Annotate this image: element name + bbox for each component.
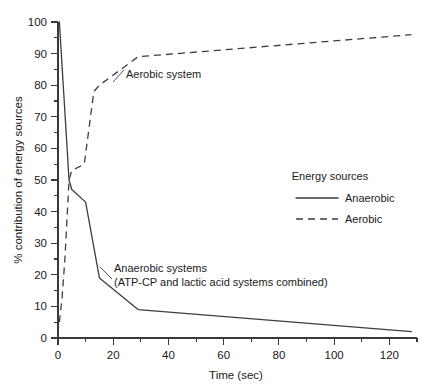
x-tick-label: 80 (273, 349, 286, 361)
x-axis-ticks (58, 338, 417, 345)
y-axis-tick-labels: 0102030405060708090100 (28, 16, 47, 344)
x-tick-label: 60 (217, 349, 230, 361)
y-axis-title: % contribution of energy sources (12, 96, 24, 264)
x-axis-tick-labels: 020406080100120 (55, 349, 399, 361)
y-tick-label: 10 (34, 300, 47, 312)
y-tick-label: 70 (34, 111, 47, 123)
y-tick-label: 50 (34, 174, 47, 186)
chart-figure: 0102030405060708090100 020406080100120 A… (0, 0, 432, 391)
y-tick-label: 0 (41, 332, 47, 344)
annotation-leaders (100, 70, 124, 279)
x-tick-label: 120 (380, 349, 399, 361)
y-tick-label: 60 (34, 142, 47, 154)
aerobic-leader-line (113, 70, 124, 82)
y-tick-label: 20 (34, 269, 47, 281)
legend: Energy sources Anaerobic Aerobic (292, 170, 395, 225)
legend-label-anaerobic: Anaerobic (345, 192, 395, 204)
aerobic-annotation: Aerobic system (126, 68, 201, 80)
anaerobic-leader-line (100, 267, 112, 279)
energy-systems-line-chart: 0102030405060708090100 020406080100120 A… (0, 0, 432, 391)
x-axis-title: Time (sec) (209, 369, 263, 381)
y-tick-label: 30 (34, 237, 47, 249)
y-tick-label: 100 (28, 16, 47, 28)
y-tick-label: 40 (34, 206, 47, 218)
y-axis-ticks (51, 22, 58, 338)
x-tick-label: 0 (55, 349, 61, 361)
anaerobic-annotation-line1: Anaerobic systems (114, 262, 207, 274)
legend-title: Energy sources (292, 170, 369, 182)
x-tick-label: 20 (107, 349, 120, 361)
anaerobic-annotation-line2: (ATP-CP and lactic acid systems combined… (114, 276, 328, 288)
y-tick-label: 80 (34, 79, 47, 91)
legend-label-aerobic: Aerobic (345, 213, 383, 225)
x-tick-label: 100 (325, 349, 344, 361)
y-tick-label: 90 (34, 48, 47, 60)
x-tick-label: 40 (162, 349, 175, 361)
